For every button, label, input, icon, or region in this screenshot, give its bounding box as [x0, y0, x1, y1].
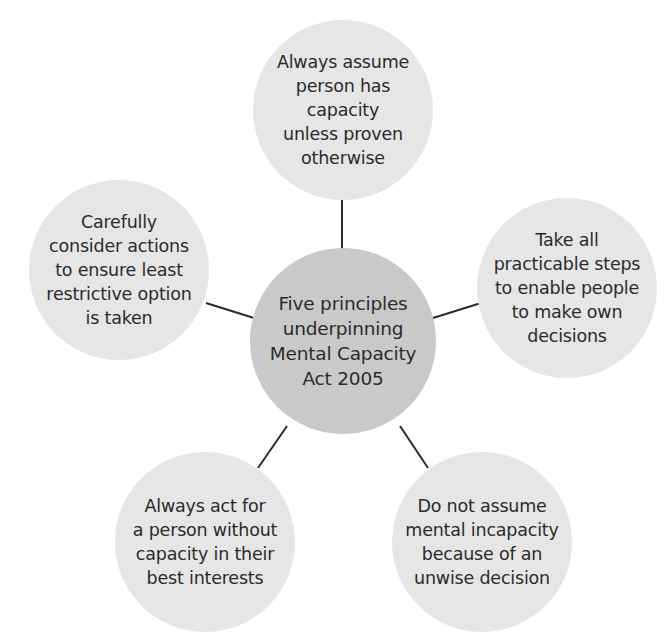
- connector-right: [433, 303, 481, 318]
- principle-label: Carefully consider actions to ensure lea…: [46, 210, 191, 330]
- connector-bottom-left: [258, 426, 287, 468]
- connector-left: [206, 303, 254, 318]
- principle-node-left: Carefully consider actions to ensure lea…: [29, 180, 209, 360]
- connector-bottom-right: [400, 426, 428, 468]
- center-label: Five principles underpinning Mental Capa…: [270, 291, 417, 391]
- principle-node-right: Take all practicable steps to enable peo…: [477, 198, 657, 378]
- principle-label: Do not assume mental incapacity because …: [405, 494, 558, 590]
- principle-label: Always act for a person without capacity…: [133, 494, 277, 590]
- center-node: Five principles underpinning Mental Capa…: [250, 248, 436, 434]
- principle-node-bottom-right: Do not assume mental incapacity because …: [392, 452, 572, 632]
- principle-node-bottom-left: Always act for a person without capacity…: [115, 452, 295, 632]
- principle-label: Always assume person has capacity unless…: [263, 50, 423, 170]
- principle-node-top: Always assume person has capacity unless…: [253, 20, 433, 200]
- principle-label: Take all practicable steps to enable peo…: [494, 228, 641, 348]
